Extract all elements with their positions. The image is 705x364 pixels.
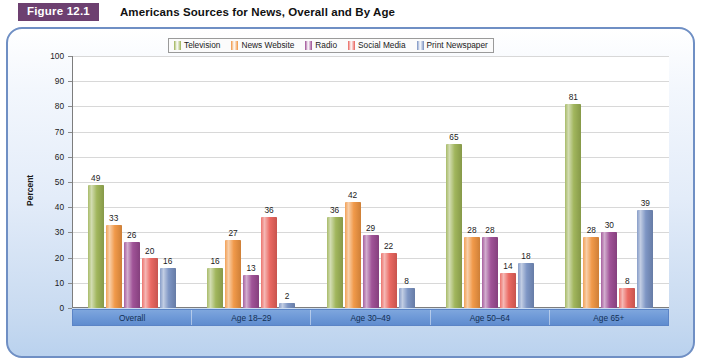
x-axis-category-label: Overall [73,310,192,325]
bar-group: 4933262016 [72,56,191,308]
legend-label: News Website [241,41,294,49]
bar-group: 364229228 [311,56,430,308]
bar-slot: 33 [105,56,123,308]
figure-number-badge: Figure 12.1 [18,3,99,21]
bar-group: 812830839 [550,56,669,308]
bar[interactable]: 16 [160,268,176,308]
legend-item[interactable]: News Website [231,41,294,50]
legend-label: Print Newspaper [427,41,488,49]
bar[interactable]: 8 [619,288,635,308]
bar[interactable]: 30 [601,232,617,308]
bar-slot: 8 [398,56,416,308]
bar[interactable]: 49 [88,185,104,308]
bar[interactable]: 28 [464,237,480,308]
bar[interactable]: 26 [124,242,140,308]
bar-slot: 27 [224,56,242,308]
bar-value-label: 18 [521,251,530,261]
bar-slot: 36 [260,56,278,308]
bar-slot: 65 [445,56,463,308]
chart-legend: TelevisionNews WebsiteRadioSocial MediaP… [168,38,494,53]
y-axis-tick-label: 40 [55,202,64,212]
x-axis-category-label: Age 18–29 [192,310,311,325]
legend-item[interactable]: Television [174,41,220,50]
bar[interactable]: 29 [363,235,379,308]
bar-slot: 28 [463,56,481,308]
plot-area: Percent 1009080706050403020100 493326201… [26,56,676,336]
y-axis-tick-label: 60 [55,152,64,162]
bar-value-label: 8 [625,276,630,286]
bar-value-label: 81 [569,92,578,102]
bar[interactable]: 33 [106,225,122,308]
bar[interactable]: 13 [243,275,259,308]
bar-slot: 2 [278,56,296,308]
bar-value-label: 49 [91,173,100,183]
legend-label: Radio [315,41,337,49]
legend-label: Television [184,41,220,49]
bar-slot: 28 [582,56,600,308]
bar[interactable]: 42 [345,202,361,308]
bar-value-label: 65 [449,132,458,142]
figure-container: Figure 12.1 Americans Sources for News, … [0,0,705,364]
bar-slot: 18 [517,56,535,308]
bar[interactable]: 20 [142,258,158,308]
bar[interactable]: 27 [225,240,241,308]
bar-slot: 20 [141,56,159,308]
x-axis-category-label: Age 30–49 [311,310,430,325]
legend-item[interactable]: Radio [305,41,337,50]
legend-swatch-icon [174,41,181,50]
bar-value-label: 14 [503,261,512,271]
bar-slot: 36 [326,56,344,308]
legend-label: Social Media [358,41,406,49]
bar[interactable]: 2 [279,303,295,308]
bar-slot: 26 [123,56,141,308]
bar-value-label: 16 [163,256,172,266]
bar-slot: 28 [481,56,499,308]
y-axis-tick-label: 0 [59,303,64,313]
bar[interactable]: 81 [565,104,581,308]
bar[interactable]: 8 [399,288,415,308]
bar-value-label: 28 [587,225,596,235]
bar[interactable]: 36 [261,217,277,308]
bar-value-label: 16 [210,256,219,266]
legend-swatch-icon [348,41,355,50]
bar-slot: 13 [242,56,260,308]
bar-value-label: 42 [348,190,357,200]
bar[interactable]: 36 [327,217,343,308]
bar-slot: 8 [618,56,636,308]
bar[interactable]: 16 [207,268,223,308]
bar-value-label: 28 [485,225,494,235]
bar-value-label: 26 [127,230,136,240]
bar-slot: 42 [344,56,362,308]
bar-group: 162713362 [191,56,310,308]
legend-swatch-icon [231,41,238,50]
bar-value-label: 22 [384,241,393,251]
y-axis-tick-label: 90 [55,76,64,86]
bar[interactable]: 18 [518,263,534,308]
bar[interactable]: 39 [637,210,653,308]
x-axis-category-label: Age 50–64 [431,310,550,325]
legend-swatch-icon [305,41,312,50]
bar-value-label: 29 [366,223,375,233]
bar[interactable]: 28 [583,237,599,308]
bar-value-label: 8 [404,276,409,286]
bar-slot: 81 [564,56,582,308]
bar[interactable]: 28 [482,237,498,308]
bar[interactable]: 65 [446,144,462,308]
y-axis-tick-label: 100 [50,51,64,61]
legend-item[interactable]: Print Newspaper [417,41,488,50]
bar-slot: 30 [600,56,618,308]
y-axis-tick-label: 70 [55,127,64,137]
bar-slot: 39 [636,56,654,308]
bar[interactable]: 22 [381,253,397,308]
bar[interactable]: 14 [500,273,516,308]
y-axis-label: Percent [25,175,35,206]
bar-slot: 29 [362,56,380,308]
legend-item[interactable]: Social Media [348,41,406,50]
y-axis-tick-label: 10 [55,278,64,288]
bar-value-label: 2 [285,291,290,301]
bar-value-label: 27 [228,228,237,238]
bar-slot: 16 [159,56,177,308]
bar-value-label: 30 [605,220,614,230]
bar-value-label: 36 [330,205,339,215]
bar-slot: 16 [206,56,224,308]
